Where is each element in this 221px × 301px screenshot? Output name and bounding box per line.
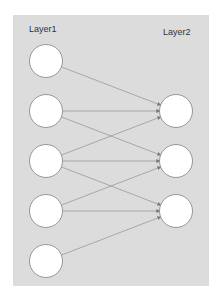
edge <box>61 217 160 255</box>
node-l1n2 <box>30 95 63 128</box>
network-diagram <box>0 0 221 301</box>
edges <box>61 67 160 255</box>
node-l2n3 <box>160 195 193 228</box>
edge <box>61 67 160 105</box>
node-l2n1 <box>160 95 193 128</box>
node-l1n3 <box>30 145 63 178</box>
node-l1n5 <box>30 245 63 278</box>
node-l1n1 <box>30 45 63 78</box>
node-l2n2 <box>160 145 193 178</box>
node-l1n4 <box>30 195 63 228</box>
